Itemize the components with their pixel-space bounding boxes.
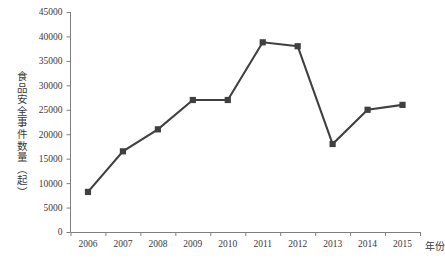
data-point-marker xyxy=(330,141,336,147)
x-axis-tick-label: 2012 xyxy=(288,239,307,249)
y-axis-tick-label: 15000 xyxy=(39,154,63,164)
x-axis-tick-label: 2006 xyxy=(78,239,97,249)
y-axis-ticks xyxy=(67,13,71,233)
x-axis-tick-label: 2009 xyxy=(183,239,202,249)
data-point-marker xyxy=(364,107,370,113)
y-axis-tick-label: 20000 xyxy=(39,130,63,140)
data-point-marker xyxy=(85,189,91,195)
y-axis-tick-label: 5000 xyxy=(44,203,63,213)
y-axis-tick-label: 10000 xyxy=(39,179,63,189)
y-axis-tick-label: 35000 xyxy=(39,56,63,66)
x-axis-tick-label: 2011 xyxy=(253,239,272,249)
data-point-marker xyxy=(399,102,405,108)
data-point-marker xyxy=(260,39,266,45)
y-axis-tick-label: 25000 xyxy=(39,105,63,115)
data-point-marker xyxy=(190,97,196,103)
x-axis-tick-label: 2015 xyxy=(393,239,412,249)
y-axis-tick-label: 45000 xyxy=(39,7,63,17)
data-point-marker xyxy=(295,43,301,49)
x-axis-title: 年份 xyxy=(425,240,445,252)
x-axis-tick-labels: 2006200720082009201020112012201320142015 xyxy=(78,239,412,249)
x-axis-tick-label: 2013 xyxy=(323,239,342,249)
x-axis-tick-label: 2014 xyxy=(358,239,377,249)
x-axis-tick-label: 2007 xyxy=(113,239,132,249)
data-point-marker xyxy=(120,148,126,154)
data-point-markers xyxy=(85,39,406,195)
x-axis-tick-label: 2010 xyxy=(218,239,237,249)
y-axis-tick-label: 40000 xyxy=(39,32,63,42)
plot-area: 4500040000350003000025000200001500010000… xyxy=(0,0,445,266)
y-axis-tick-labels: 4500040000350003000025000200001500010000… xyxy=(39,7,63,237)
x-axis-tick-label: 2008 xyxy=(148,239,167,249)
y-axis-tick-label: 0 xyxy=(58,227,63,237)
food-safety-incidents-line-chart: 食品安全事件数量（起） 4500040000350003000025000200… xyxy=(0,0,445,266)
data-point-marker xyxy=(225,97,231,103)
data-series-line xyxy=(88,42,403,192)
y-axis-tick-label: 30000 xyxy=(39,81,63,91)
data-point-marker xyxy=(155,126,161,132)
